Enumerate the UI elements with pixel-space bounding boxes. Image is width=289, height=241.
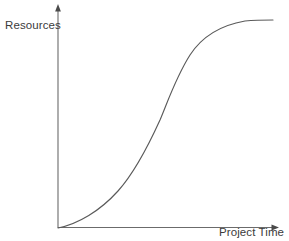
x-axis-label: Project Time xyxy=(219,226,284,239)
y-axis-arrow-icon xyxy=(55,4,61,12)
chart-canvas xyxy=(0,0,289,241)
s-curve-line xyxy=(58,20,273,228)
s-curve-chart: Resources Project Time xyxy=(0,0,289,241)
y-axis-label: Resources xyxy=(5,19,61,32)
